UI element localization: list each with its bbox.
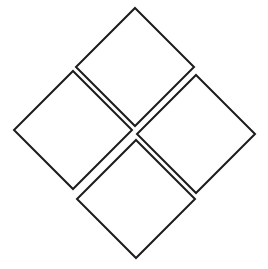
four-diamonds-drawing bbox=[0, 0, 268, 269]
figure-canvas bbox=[0, 0, 268, 269]
